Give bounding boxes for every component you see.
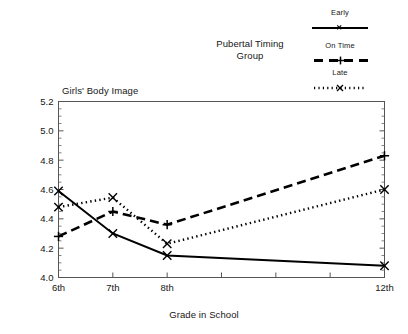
x-axis-tick-labels: 6th7th8th12th bbox=[52, 282, 394, 293]
svg-text:4.8: 4.8 bbox=[40, 155, 53, 166]
svg-text:4.4: 4.4 bbox=[40, 213, 53, 224]
data-series-layer bbox=[54, 151, 389, 270]
svg-text:7th: 7th bbox=[106, 282, 119, 293]
svg-text:5.2: 5.2 bbox=[40, 96, 53, 107]
svg-text:4.6: 4.6 bbox=[40, 184, 53, 195]
svg-text:8th: 8th bbox=[161, 282, 174, 293]
x-axis-ticks bbox=[59, 102, 385, 278]
y-axis-ticks bbox=[59, 102, 385, 278]
plot-frame bbox=[59, 102, 385, 278]
plot-area: 4.04.24.44.64.85.05.2 6th7th8th12th bbox=[0, 0, 408, 334]
svg-text:4.2: 4.2 bbox=[40, 243, 53, 254]
y-axis-tick-labels: 4.04.24.44.64.85.05.2 bbox=[40, 96, 53, 283]
svg-text:12th: 12th bbox=[375, 282, 394, 293]
svg-text:5.0: 5.0 bbox=[40, 125, 53, 136]
x-axis-title: Grade in School bbox=[0, 309, 408, 320]
svg-text:6th: 6th bbox=[52, 282, 65, 293]
chart-figure: Pubertal Timing Group Early On Time bbox=[0, 0, 408, 334]
